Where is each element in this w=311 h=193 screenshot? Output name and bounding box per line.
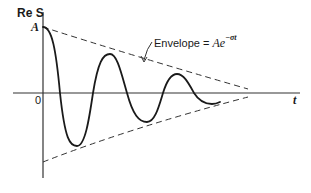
envelope-text: Envelope = — [154, 37, 212, 49]
x-axis-label: t — [293, 93, 296, 108]
envelope-math-base: Ae — [212, 36, 225, 50]
lower-envelope — [43, 97, 248, 162]
envelope-pointer-arrow — [144, 42, 152, 60]
y-axis-label: Re S — [17, 6, 44, 20]
envelope-math-exponent: −σt — [225, 33, 236, 42]
envelope-annotation: Envelope = Ae−σt — [154, 35, 236, 51]
amplitude-label: A — [31, 20, 39, 35]
damped-oscillation-figure — [0, 0, 311, 193]
origin-label: 0 — [35, 94, 41, 106]
